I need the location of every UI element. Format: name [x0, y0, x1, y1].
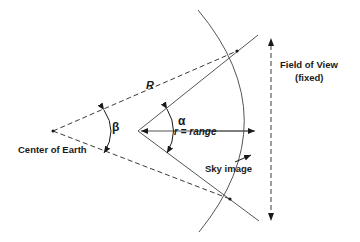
- fov-arrow-head-top: [268, 38, 274, 46]
- label-center-of-earth: Center of Earth: [18, 144, 87, 155]
- center-of-earth-dot: [52, 130, 55, 133]
- radius-line-top: [53, 51, 237, 131]
- label-field-of-view: Field of View: [280, 59, 339, 70]
- fov-arrow-head-bottom: [268, 213, 274, 221]
- view-line-top: [138, 35, 258, 131]
- sky-image-pointer: [235, 155, 251, 162]
- label-range: r = range: [174, 126, 217, 137]
- diagram-canvas: R β α r = range Center of Earth Sky imag…: [0, 0, 360, 242]
- label-beta: β: [112, 120, 119, 134]
- intersection-dot-bottom: [228, 197, 231, 200]
- beta-angle-arc: [104, 110, 111, 153]
- sky-image-arc: [198, 10, 244, 232]
- geometry-diagram: R β α r = range Center of Earth Sky imag…: [0, 0, 360, 242]
- view-line-bottom: [138, 131, 259, 221]
- label-fixed: (fixed): [295, 72, 324, 83]
- label-sky-image: Sky image: [205, 163, 252, 174]
- radius-line-bottom: [53, 131, 230, 199]
- intersection-dot-top: [235, 49, 238, 52]
- label-radius: R: [146, 79, 154, 91]
